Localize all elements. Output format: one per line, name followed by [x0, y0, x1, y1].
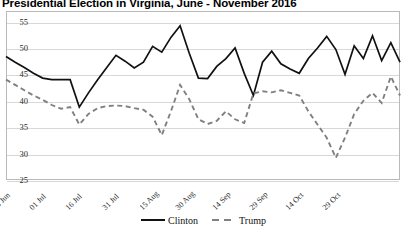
legend-swatch-trump	[212, 216, 236, 224]
chart-title: Presidential Election in Virginia, June …	[2, 0, 402, 10]
series-line-clinton	[6, 26, 400, 107]
x-axis-tick-labels: 16 Jun01 Jul16 Jul31 Jul15 Aug30 Aug14 S…	[0, 180, 407, 214]
x-axis-tick-label: 16 Jun	[0, 191, 12, 212]
x-axis-tick-label: 14 Sep	[211, 190, 233, 212]
x-axis-tick-label: 16 Jul	[64, 192, 84, 212]
series-line-trump	[6, 76, 400, 157]
legend-swatch-clinton	[141, 216, 165, 224]
chart-legend: Clinton Trump	[0, 211, 407, 229]
data-series-layer	[6, 11, 400, 180]
x-axis-tick-label: 15 Aug	[137, 189, 160, 212]
x-axis-tick-label: 01 Jul	[27, 192, 47, 212]
legend-label-clinton: Clinton	[168, 215, 198, 226]
x-axis-tick-label: 14 Oct	[284, 190, 306, 212]
x-axis-tick-label: 30 Aug	[174, 189, 197, 212]
x-axis-tick-label: 29 Oct	[321, 190, 343, 212]
x-axis-tick-label: 31 Jul	[101, 192, 121, 212]
legend-item-clinton: Clinton	[141, 215, 198, 226]
legend-item-trump: Trump	[212, 215, 266, 226]
chart-container: Presidential Election in Virginia, June …	[0, 0, 407, 233]
x-axis-tick-label: 29 Sep	[247, 190, 269, 212]
legend-label-trump: Trump	[239, 215, 266, 226]
